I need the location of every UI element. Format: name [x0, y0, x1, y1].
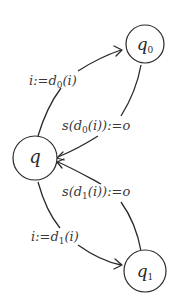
svg-text:q: q: [29, 146, 41, 167]
state-q1: q1: [124, 250, 166, 292]
state-q0: q0: [126, 25, 164, 63]
edge-label-q0-to-q: s(d0(i)):=o: [62, 118, 130, 135]
edge-label-q-to-q0: i:=d0(i): [29, 73, 77, 90]
state-q: q: [13, 136, 57, 180]
state-diagram: q0 q q1 i:=d0(i) s(d0(i)):=o s(d1(i)):=o…: [0, 0, 177, 306]
edge-label-q-to-q1: i:=d1(i): [31, 229, 79, 246]
edge-label-q1-to-q: s(d1(i)):=o: [62, 184, 130, 201]
